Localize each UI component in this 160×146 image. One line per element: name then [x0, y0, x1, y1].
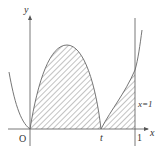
y-axis-arrow-icon [28, 15, 32, 20]
tick-label-t: t [100, 132, 103, 143]
tick-label-1: 1 [137, 132, 142, 143]
x-axis-arrow-icon [144, 127, 149, 131]
curve-left-branch [9, 72, 30, 129]
vertical-line-label: x=1 [137, 99, 153, 109]
shaded-region-o-to-t [30, 45, 101, 129]
function-graph-figure: y x O t 1 x=1 [0, 0, 160, 146]
origin-label: O [19, 133, 26, 144]
x-axis-label: x [149, 127, 155, 138]
y-axis-label: y [23, 4, 29, 15]
